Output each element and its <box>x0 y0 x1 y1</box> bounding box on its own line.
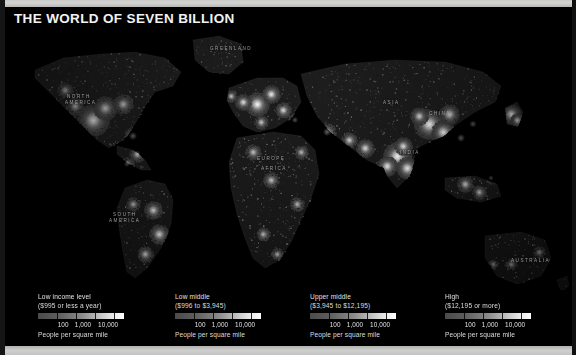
legend-tick-label: 1,000 <box>75 320 92 329</box>
scan-edge-bottom <box>0 346 576 355</box>
legend-tick-label: 1,000 <box>212 320 229 329</box>
page-title: THE WORLD OF SEVEN BILLION <box>14 10 235 27</box>
legend-tick-labels-high: 1001,00010,000 <box>445 320 535 330</box>
infographic-page: THE WORLD OF SEVEN BILLION GREENLANDNORT… <box>0 0 576 355</box>
legend-bar-divider <box>251 313 252 319</box>
population-density-raster <box>5 28 572 290</box>
legend-tick-label: 100 <box>330 320 341 329</box>
legend-subtitle-high: ($12,195 or more) <box>445 302 571 311</box>
legend-title-upper-middle: Upper middle <box>310 293 436 302</box>
scan-edge-right <box>572 0 576 355</box>
legend-bar-divider <box>502 313 503 319</box>
legend-gradient-bar-low-middle <box>175 313 261 319</box>
legend-gradient-bar-upper-middle <box>310 313 396 319</box>
world-map: GREENLANDNORTHAMERICAEUROPEASIACHINAINDI… <box>5 28 572 290</box>
legend-tick-label: 100 <box>465 320 476 329</box>
legend-block-upper-middle: Upper middle($3,945 to $12,195)1001,0001… <box>310 293 436 339</box>
legend-title-low-income: Low income level <box>38 293 164 302</box>
legend-gradient-bar-low-income <box>38 313 124 319</box>
legend-bar-divider <box>213 313 214 319</box>
legend-bar-divider <box>57 313 58 319</box>
legend-bar-divider <box>367 313 368 319</box>
legend-units-high: People per square mile <box>445 330 571 339</box>
legend-bar-divider <box>114 313 115 319</box>
legend-units-low-middle: People per square mile <box>175 330 301 339</box>
legend-bar-divider <box>329 313 330 319</box>
legend-bar-divider <box>483 313 484 319</box>
legend-bar-divider <box>194 313 195 319</box>
legend-subtitle-low-income: ($995 or less a year) <box>38 302 164 311</box>
legend-block-low-middle: Low middle($996 to $3,945)1001,00010,000… <box>175 293 301 339</box>
legend-title-low-middle: Low middle <box>175 293 301 302</box>
legend: Low income level($995 or less a year)100… <box>5 290 572 346</box>
legend-subtitle-low-middle: ($996 to $3,945) <box>175 302 301 311</box>
legend-tick-label: 100 <box>195 320 206 329</box>
legend-tick-label: 10,000 <box>98 320 118 329</box>
scan-edge-top <box>0 0 576 7</box>
legend-units-upper-middle: People per square mile <box>310 330 436 339</box>
legend-tick-label: 10,000 <box>505 320 525 329</box>
legend-bar-divider <box>348 313 349 319</box>
legend-tick-label: 100 <box>58 320 69 329</box>
legend-bar-divider <box>76 313 77 319</box>
legend-tick-label: 1,000 <box>347 320 364 329</box>
legend-bar-divider <box>521 313 522 319</box>
legend-tick-labels-low-middle: 1001,00010,000 <box>175 320 265 330</box>
legend-gradient-bar-high <box>445 313 531 319</box>
legend-units-low-income: People per square mile <box>38 330 164 339</box>
legend-bar-divider <box>464 313 465 319</box>
legend-tick-label: 10,000 <box>235 320 255 329</box>
poster-plate: THE WORLD OF SEVEN BILLION GREENLANDNORT… <box>5 7 572 346</box>
legend-bar-divider <box>386 313 387 319</box>
legend-tick-labels-low-income: 1001,00010,000 <box>38 320 128 330</box>
legend-block-low-income: Low income level($995 or less a year)100… <box>38 293 164 339</box>
legend-tick-label: 10,000 <box>370 320 390 329</box>
legend-subtitle-upper-middle: ($3,945 to $12,195) <box>310 302 436 311</box>
legend-title-high: High <box>445 293 571 302</box>
legend-bar-divider <box>232 313 233 319</box>
legend-tick-label: 1,000 <box>482 320 499 329</box>
legend-bar-divider <box>95 313 96 319</box>
legend-block-high: High($12,195 or more)1001,00010,000Peopl… <box>445 293 571 339</box>
legend-tick-labels-upper-middle: 1001,00010,000 <box>310 320 400 330</box>
